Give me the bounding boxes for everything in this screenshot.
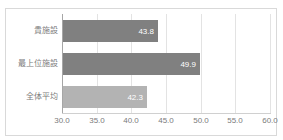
x-tick-label: 55.0 <box>227 116 243 126</box>
chart-container: 43.849.942.3 貴施設最上位施設全体平均 30.035.040.045… <box>0 0 283 140</box>
bar-row[interactable]: 43.8 <box>62 20 158 42</box>
x-axis-tick-labels: 30.035.040.045.050.055.060.0 <box>62 116 271 128</box>
gridline <box>201 14 202 113</box>
category-label: 貴施設 <box>2 26 58 36</box>
category-label: 最上位施設 <box>2 59 58 69</box>
gridline <box>235 14 236 113</box>
x-tick-label: 60.0 <box>262 116 278 126</box>
bar-row[interactable]: 42.3 <box>62 86 147 108</box>
bar[interactable]: 43.8 <box>62 20 158 42</box>
bar-value-label: 43.8 <box>138 27 154 36</box>
bar-value-label: 49.9 <box>180 60 196 69</box>
y-axis-line <box>62 14 63 113</box>
x-tick-label: 50.0 <box>193 116 209 126</box>
bar-value-label: 42.3 <box>127 93 143 102</box>
x-tick-label: 35.0 <box>89 116 105 126</box>
category-label: 全体平均 <box>2 92 58 102</box>
bar[interactable]: 42.3 <box>62 86 147 108</box>
x-tick-label: 45.0 <box>158 116 174 126</box>
bar-row[interactable]: 49.9 <box>62 53 200 75</box>
bar[interactable]: 49.9 <box>62 53 200 75</box>
x-axis-line <box>62 113 271 114</box>
category-axis-labels: 貴施設最上位施設全体平均 <box>0 14 58 113</box>
gridline <box>270 14 271 113</box>
x-tick-label: 40.0 <box>123 116 139 126</box>
chart-title <box>0 0 283 1</box>
plot-area: 43.849.942.3 <box>62 14 270 113</box>
x-tick-label: 30.0 <box>54 116 70 126</box>
